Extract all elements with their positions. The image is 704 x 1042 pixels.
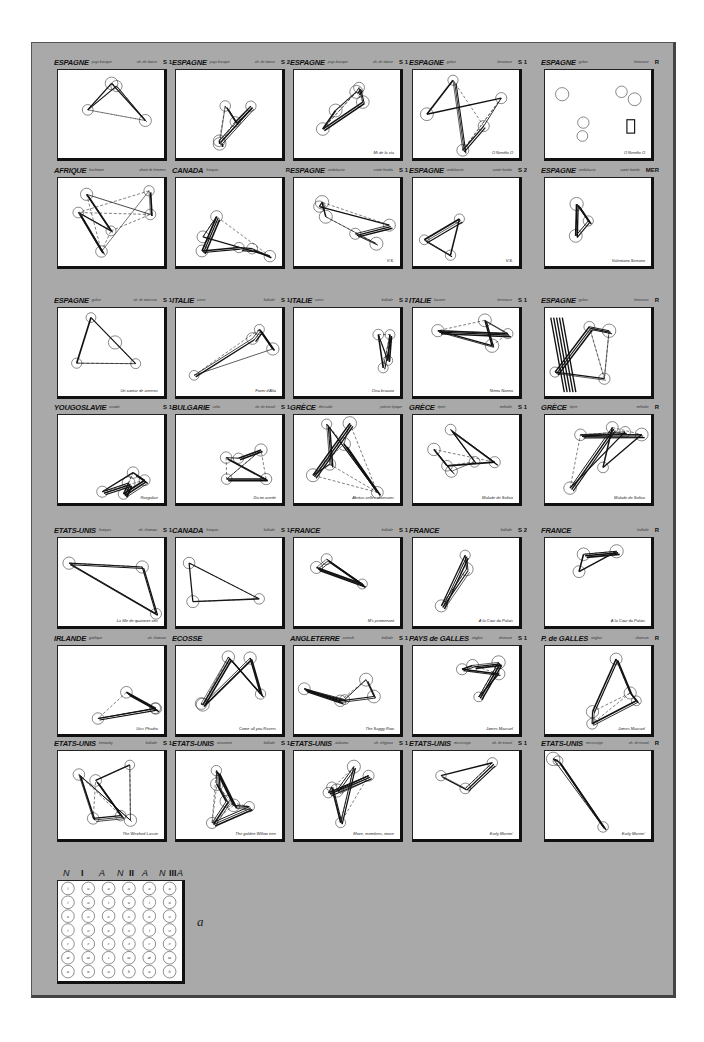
cell-label: FRANCEballadeS 2 — [409, 525, 527, 536]
cell-label: GRÈCEépiremélodieS 1 — [409, 402, 527, 413]
country-label: FRANCE — [541, 525, 571, 536]
trajectory-diagram — [545, 415, 651, 503]
cell-label: ESPAGNEgaliceberceuseR — [541, 295, 659, 306]
trajectory-diagram — [176, 178, 282, 266]
region-label: français — [206, 165, 218, 176]
series-code: S 1 — [163, 738, 172, 749]
svg-text:o: o — [168, 914, 171, 919]
svg-text:ɔ: ɔ — [169, 941, 171, 946]
legend-header-item: A — [177, 868, 183, 878]
song-cell: P. de GALLESanglaischansonRJames Macrael — [541, 633, 659, 739]
legend-grid: iieiɛæauuooɔɯɒaieeɛɪauuooɔɯhaieiɛæauuooɔ… — [57, 880, 185, 984]
region-label: pays basque — [210, 57, 230, 68]
vowel-trajectory-panel: Un cantar de arrieros — [57, 307, 167, 399]
region-label: pays basque — [328, 57, 348, 68]
song-cell: IRLANDEgaéliquech. d'amourUiss Phadru — [54, 633, 172, 739]
region-label: andalousie — [447, 165, 464, 176]
genre-label: ch. de travail — [255, 402, 275, 413]
genre-label: ballade — [501, 525, 512, 536]
song-cell: FRANCEballadeS 2À la Cour du Palais — [409, 525, 527, 631]
legend-header: NIANIIANIIIA — [57, 868, 189, 880]
song-cell: ESPAGNEandalousiecante hondoS 2V.S. — [409, 165, 527, 271]
trajectory-diagram — [294, 751, 400, 839]
svg-text:e: e — [108, 914, 110, 919]
region-label: lucanie — [434, 295, 445, 306]
series-code: S 1 — [518, 57, 527, 68]
svg-text:u: u — [168, 886, 171, 891]
country-label: GRÈCE — [290, 402, 316, 413]
svg-text:ɛ: ɛ — [108, 941, 110, 946]
svg-text:h: h — [128, 969, 131, 974]
song-cell: ECOSSECome all you Rovers — [172, 633, 290, 739]
country-label: CANADA — [172, 165, 203, 176]
song-caption: Akritas celles chansons — [352, 495, 394, 500]
genre-label: berceuse — [634, 57, 648, 68]
country-label: ETATS-UNIS — [172, 738, 214, 749]
country-label: CANADA — [172, 525, 203, 536]
region-label: anglais — [472, 633, 483, 644]
svg-text:u: u — [87, 900, 90, 905]
region-label: corse — [197, 295, 206, 306]
vowel-trajectory-panel: The Saggy Row — [293, 645, 403, 737]
trajectory-diagram — [413, 415, 519, 503]
region-label: pays basque — [92, 57, 112, 68]
country-label: ESPAGNE — [409, 165, 444, 176]
region-label: andalousie — [328, 165, 345, 176]
cell-label: ECOSSE — [172, 633, 290, 644]
song-caption: James Macrael — [486, 726, 513, 731]
region-label: kentucky — [99, 738, 113, 749]
region-label: épire — [570, 402, 578, 413]
vowel-trajectory-panel: The Wexford Lassie — [57, 750, 167, 842]
trajectory-diagram — [545, 70, 651, 158]
legend-header-item: III — [169, 868, 177, 878]
svg-text:u: u — [128, 886, 131, 891]
region-label: andalousie — [579, 165, 596, 176]
region-label: galice — [447, 57, 456, 68]
vowel-trajectory-panel: Valentano Serrano — [544, 177, 654, 269]
song-caption: À la Cour du Palais — [611, 618, 645, 623]
trajectory-diagram — [294, 308, 400, 396]
genre-label: cante hondo — [493, 165, 512, 176]
genre-label: chanson — [635, 633, 648, 644]
trajectory-diagram — [545, 751, 651, 839]
song-cell: CANADAfrançaisR — [172, 165, 290, 271]
vowel-trajectory-panel: Ninna Nanna — [412, 307, 522, 399]
vowel-trajectory-panel: Rozgalice — [57, 414, 167, 506]
vowel-trajectory-panel: O Neniño O — [412, 69, 522, 161]
vowel-trajectory-panel: James Macrael — [544, 645, 654, 737]
cell-label: ETATS-UNISmississippich. de travailS 1 — [409, 738, 527, 749]
country-label: ESPAGNE — [172, 57, 207, 68]
genre-label: ballade — [146, 738, 157, 749]
vowel-trajectory-panel: V.S. — [412, 177, 522, 269]
song-caption: Malade de Sofico — [614, 495, 645, 500]
svg-text:o: o — [128, 914, 131, 919]
song-caption: O Neniño O — [492, 150, 513, 155]
cell-label: ESPAGNEgaliceberceuseS 1 — [409, 57, 527, 68]
song-cell: ANGLETERREcornishballadeS 1The Saggy Row — [290, 633, 408, 739]
svg-text:e: e — [108, 928, 110, 933]
series-code: S 1 — [399, 738, 408, 749]
country-label: ESPAGNE — [541, 295, 576, 306]
song-caption: Malade de Sofico — [482, 495, 513, 500]
series-code: S 1 — [281, 738, 290, 749]
cell-label: CANADAfrançaisR — [172, 165, 290, 176]
song-caption: The Saggy Row — [366, 726, 394, 731]
region-label: sofia — [213, 402, 220, 413]
vowel-trajectory-panel: À la Cour du Palais — [412, 537, 522, 629]
figure-plate: ESPAGNEpays basquech. de danseS 1ESPAGNE… — [31, 42, 676, 998]
trajectory-diagram — [58, 538, 164, 626]
vowel-trajectory-panel: Akritas celles chansons — [293, 414, 403, 506]
svg-text:a: a — [67, 969, 70, 974]
song-cell: GRÈCEépiremélodieRMalade de Sofico — [541, 402, 659, 508]
series-code: R — [655, 57, 659, 68]
cell-label: ITALIElucanieberceuseS 1 — [409, 295, 527, 306]
country-label: BULGARIE — [172, 402, 210, 413]
song-caption: Come all you Rovers — [239, 726, 276, 731]
region-label: wisconsin — [217, 738, 232, 749]
trajectory-diagram — [294, 646, 400, 734]
svg-text:a: a — [148, 886, 151, 891]
series-code: S 2 — [518, 165, 527, 176]
song-caption: The Wexford Lassie — [123, 831, 159, 836]
region-label: corse — [315, 295, 324, 306]
trajectory-diagram — [58, 415, 164, 503]
